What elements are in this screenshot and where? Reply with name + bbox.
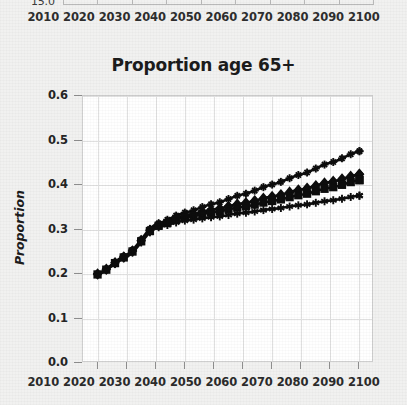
x-axis-tick — [300, 362, 301, 369]
cut-off-chart-above: 15.0 20102020203020402050206020702080209… — [0, 0, 407, 48]
x-axis-tick-label: 2070 — [241, 375, 273, 389]
cut-off-x-tick-label: 2100 — [348, 10, 380, 24]
cut-off-x-axis — [63, 4, 373, 5]
x-axis-tick-label: 2050 — [170, 375, 202, 389]
x-axis-tick-label: 2040 — [134, 375, 166, 389]
y-axis-tick-label: 0.6 — [48, 88, 68, 102]
x-axis-tick-label: 2030 — [99, 375, 131, 389]
data-point-square — [251, 201, 257, 207]
y-axis-tick-label: 0.0 — [48, 355, 68, 369]
y-axis-tick — [74, 184, 82, 185]
data-point-square — [278, 196, 284, 202]
y-axis-tick-label: 0.3 — [48, 222, 68, 236]
x-axis-tick-labels: 2010202020302040205020602070208020902100 — [0, 375, 407, 389]
x-axis-tick — [329, 362, 330, 369]
x-axis-tick-label: 2080 — [277, 375, 309, 389]
cut-off-x-tick-label: 2080 — [277, 10, 309, 24]
data-point-plus-star — [329, 158, 337, 166]
data-point-plus-star — [312, 165, 320, 173]
x-axis-tick-label: 2020 — [63, 375, 95, 389]
data-point-square — [321, 186, 327, 192]
cut-off-tick — [166, 0, 167, 5]
y-axis-tick-labels: 0.00.10.20.30.40.50.6 — [0, 95, 78, 362]
cut-off-tick — [63, 0, 64, 5]
chart-title: Proportion age 65+ — [0, 55, 407, 75]
data-point-plus-star — [268, 181, 276, 189]
cut-off-x-tick-label: 2040 — [134, 10, 166, 24]
data-point-plus-star — [338, 154, 346, 162]
cut-off-x-tick-label: 2060 — [206, 10, 238, 24]
x-axis-tick — [97, 362, 98, 369]
x-axis-tick — [271, 362, 272, 369]
cut-off-tick — [270, 0, 271, 5]
data-point-plus-star — [242, 190, 250, 198]
x-axis-tick — [155, 362, 156, 369]
cut-off-x-tick-labels: 2010202020302040205020602070208020902100 — [0, 10, 407, 24]
x-axis-tick-label: 2010 — [27, 375, 59, 389]
data-point-square — [330, 184, 336, 190]
data-point-plus-star — [303, 169, 311, 177]
data-point-square — [286, 194, 292, 200]
data-point-square — [339, 182, 345, 188]
y-axis-tick — [74, 229, 82, 230]
cut-off-x-tick-label: 2010 — [27, 10, 59, 24]
y-axis-tick — [74, 318, 82, 319]
x-axis-tick — [242, 362, 243, 369]
data-point-square — [243, 203, 249, 209]
x-axis-tick-label: 2060 — [206, 375, 238, 389]
cut-off-tick — [132, 0, 133, 5]
cut-off-tick — [97, 0, 98, 5]
data-point-square — [348, 179, 354, 185]
y-axis-tick — [74, 95, 82, 96]
data-point-plus-star — [321, 161, 329, 169]
cut-off-x-tick-label: 2030 — [99, 10, 131, 24]
data-point-square — [260, 199, 266, 205]
cut-off-x-tick-label: 2090 — [312, 10, 344, 24]
y-axis-tick-label: 0.5 — [48, 133, 68, 147]
x-axis-tick — [213, 362, 214, 369]
data-point-plus-star — [277, 178, 285, 186]
cut-off-tick — [235, 0, 236, 5]
data-point-plus-star — [259, 183, 267, 191]
cut-off-tick — [304, 0, 305, 5]
y-axis-tick-label: 0.1 — [48, 311, 68, 325]
data-point-square — [304, 190, 310, 196]
x-axis-tick-marks — [82, 362, 373, 370]
cut-off-x-tick-label: 2020 — [63, 10, 95, 24]
x-axis-tick — [126, 362, 127, 369]
y-axis-tick — [74, 273, 82, 274]
y-axis-tick-label: 0.2 — [48, 266, 68, 280]
data-point-square — [313, 188, 319, 194]
y-axis-tick-label: 0.4 — [48, 177, 68, 191]
data-point-plus-star — [347, 150, 355, 158]
data-point-plus-star — [251, 187, 259, 195]
data-point-plus-star — [286, 174, 294, 182]
x-axis-tick — [358, 362, 359, 369]
data-point-plus-star — [294, 171, 302, 179]
data-point-square — [269, 198, 275, 204]
cut-off-tick — [373, 0, 374, 5]
x-axis-tick-label: 2100 — [348, 375, 380, 389]
cut-off-y-axis-label: 15.0 — [31, 0, 55, 8]
data-point-square — [295, 192, 301, 198]
cut-off-x-tick-label: 2070 — [241, 10, 273, 24]
x-axis-tick — [184, 362, 185, 369]
plot-area — [82, 95, 373, 362]
x-axis-tick-label: 2090 — [312, 375, 344, 389]
series-layer — [83, 96, 374, 363]
y-axis-tick — [74, 140, 82, 141]
data-point-plus-star — [355, 147, 363, 155]
cut-off-x-tick-label: 2050 — [170, 10, 202, 24]
line-series-square — [98, 180, 360, 274]
cut-off-tick — [339, 0, 340, 5]
y-axis-tick — [74, 362, 82, 363]
data-point-square — [356, 177, 362, 183]
proportion-age-65-plus-chart: Proportion age 65+ Proportion 0.00.10.20… — [0, 50, 407, 405]
cut-off-tick — [201, 0, 202, 5]
